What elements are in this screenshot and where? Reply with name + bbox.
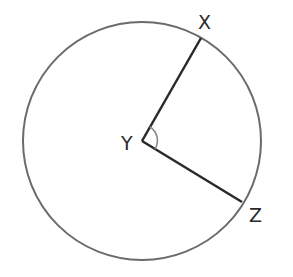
radius-yz [142, 141, 242, 202]
circle-diagram: X Y Z [0, 0, 293, 277]
label-y: Y [120, 132, 133, 154]
radius-yx [142, 38, 201, 141]
label-z: Z [249, 204, 262, 226]
label-x: X [198, 11, 211, 33]
